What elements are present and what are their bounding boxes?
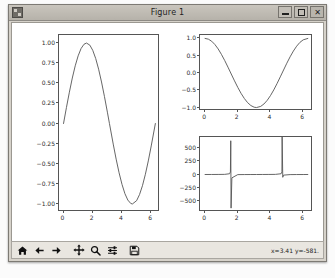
sine-subplot-ytick-mark [56, 62, 58, 63]
configure-subplots-glyph [107, 245, 118, 256]
matplotlib-figure: 1.000.750.500.250.00−0.25−0.50−0.75−1.00… [12, 23, 323, 242]
cosine-subplot-ytick-mark [197, 107, 199, 108]
tangent-subplot-ytick-label: −250 [175, 183, 196, 190]
screenshot-root: Figure 1 ✕ [0, 0, 335, 278]
sine-subplot-ytick-mark [56, 143, 58, 144]
back-arrow-glyph [34, 245, 45, 256]
cosine-subplot-xtick-label: 6 [300, 113, 304, 120]
tangent-subplot-ytick-mark [197, 174, 199, 175]
sine-subplot-ytick-mark [56, 102, 58, 103]
sine-subplot-xtick-mark [121, 211, 122, 213]
cosine-subplot-xtick-label: 4 [268, 113, 272, 120]
sine-subplot-ytick-label: 0.25 [34, 99, 55, 106]
cosine-subplot-ytick-mark [197, 55, 199, 56]
sine-subplot-xtick-mark [150, 211, 151, 213]
cosine-subplot-ytick-label: −1.0 [175, 103, 196, 110]
sine-subplot-ytick-label: 1.00 [34, 39, 55, 46]
tangent-subplot-ytick-label: −500 [175, 197, 196, 204]
cosine-subplot-ytick-mark [197, 37, 199, 38]
tangent-subplot-xtick-mark [204, 211, 205, 213]
close-button[interactable]: ✕ [310, 6, 324, 18]
navigation-toolbar: x=3.41 y=-581. [11, 241, 324, 259]
coordinate-readout: x=3.41 y=-581. [271, 247, 319, 254]
figure-canvas[interactable]: 1.000.750.500.250.00−0.25−0.50−0.75−1.00… [11, 22, 324, 243]
cosine-subplot-xtick-mark [302, 110, 303, 112]
tangent-subplot-ytick-mark [197, 187, 199, 188]
sine-subplot-ytick-mark [56, 183, 58, 184]
sine-subplot-ytick-mark [56, 123, 58, 124]
cosine-subplot-ytick-label: −0.5 [175, 86, 196, 93]
tangent-subplot-ytick-mark [197, 200, 199, 201]
window-controls: ✕ [278, 6, 324, 18]
tangent-subplot-xtick-label: 4 [268, 214, 272, 221]
figure-caption [0, 264, 335, 278]
sine-curve [59, 35, 160, 212]
cosine-subplot-ytick-label: 0.0 [175, 69, 196, 76]
home-icon-glyph [17, 245, 28, 256]
cosine-subplot-xtick-label: 0 [202, 113, 206, 120]
tangent-subplot-xtick-label: 2 [235, 214, 239, 221]
minimize-button[interactable] [278, 6, 292, 18]
pan-move-glyph [73, 244, 85, 256]
sine-subplot-ytick-mark [56, 163, 58, 164]
sine-subplot-ytick-label: 0.00 [34, 119, 55, 126]
sine-subplot-ytick-mark [56, 42, 58, 43]
zoom-magnifier-glyph [90, 245, 101, 256]
sine-subplot-ytick-mark [56, 203, 58, 204]
cosine-subplot-xtick-mark [204, 110, 205, 112]
cosine-subplot-xtick-label: 2 [235, 113, 239, 120]
sine-subplot-xtick-label: 4 [119, 214, 123, 221]
maximize-icon [298, 9, 305, 16]
tangent-subplot-ytick-label: 500 [175, 143, 196, 150]
close-icon: ✕ [313, 9, 322, 16]
zoom-magnifier-icon[interactable] [88, 243, 103, 258]
cosine-subplot-ytick-label: 1.0 [175, 34, 196, 41]
sine-subplot-axes[interactable] [58, 34, 159, 211]
cosine-subplot-ytick-label: 0.5 [175, 51, 196, 58]
tangent-subplot-xtick-mark [302, 211, 303, 213]
sine-subplot-ytick-label: −0.25 [34, 139, 55, 146]
tangent-subplot-ytick-mark [197, 147, 199, 148]
sine-subplot-ytick-label: −0.75 [34, 179, 55, 186]
sine-subplot-xtick-label: 0 [61, 214, 65, 221]
sine-subplot-xtick-mark [63, 211, 64, 213]
pan-move-icon[interactable] [71, 243, 86, 258]
sine-subplot-ytick-mark [56, 82, 58, 83]
tangent-curve [200, 137, 313, 212]
maximize-button[interactable] [294, 6, 308, 18]
forward-arrow-icon[interactable] [49, 243, 64, 258]
sine-subplot-ytick-label: −1.00 [34, 199, 55, 206]
back-arrow-icon[interactable] [32, 243, 47, 258]
tangent-subplot-ytick-mark [197, 160, 199, 161]
tangent-subplot-xtick-label: 0 [202, 214, 206, 221]
save-floppy-icon[interactable] [127, 243, 142, 258]
sine-subplot-xtick-label: 6 [148, 214, 152, 221]
sine-subplot-xtick-label: 2 [90, 214, 94, 221]
tangent-subplot-axes[interactable] [199, 136, 312, 211]
cosine-subplot-ytick-mark [197, 72, 199, 73]
sine-subplot-ytick-label: −0.50 [34, 159, 55, 166]
forward-arrow-glyph [51, 245, 62, 256]
cosine-subplot-xtick-mark [237, 110, 238, 112]
cosine-subplot-ytick-mark [197, 89, 199, 90]
tangent-subplot-xtick-label: 6 [300, 214, 304, 221]
cosine-subplot-xtick-mark [269, 110, 270, 112]
save-floppy-glyph [129, 245, 140, 256]
configure-subplots-icon[interactable] [105, 243, 120, 258]
window-titlebar[interactable]: Figure 1 ✕ [9, 5, 326, 21]
cosine-curve [200, 35, 313, 111]
tangent-subplot-xtick-mark [237, 211, 238, 213]
tangent-subplot-ytick-label: 0 [175, 170, 196, 177]
tangent-subplot-ytick-label: 250 [175, 157, 196, 164]
sine-subplot-ytick-label: 0.50 [34, 79, 55, 86]
cosine-subplot-axes[interactable] [199, 34, 312, 110]
sine-subplot-ytick-label: 0.75 [34, 59, 55, 66]
figure-window: Figure 1 ✕ [8, 4, 327, 262]
home-icon[interactable] [15, 243, 30, 258]
tangent-subplot-xtick-mark [269, 211, 270, 213]
sine-subplot-xtick-mark [92, 211, 93, 213]
minimize-icon [282, 13, 289, 15]
